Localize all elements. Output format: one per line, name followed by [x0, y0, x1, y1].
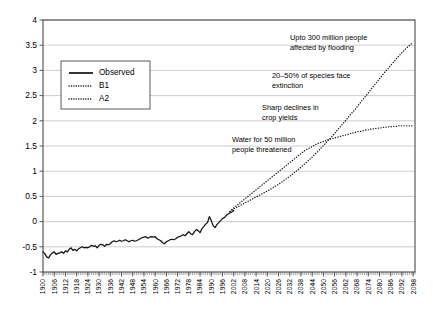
chart-container: 43.532.521.510.50-0.5-1 1900190619121918…	[0, 0, 433, 325]
annotations: Upto 300 million peopleaffected by flood…	[232, 33, 367, 154]
x-axis-label: 2074	[365, 279, 372, 294]
annotation-line-2: affected by flooding	[290, 43, 354, 52]
x-axis-label: 1918	[73, 279, 80, 294]
y-axis-label: 1	[32, 166, 37, 176]
x-axis-label: 1972	[174, 279, 181, 294]
y-axis-label: 0.5	[25, 191, 37, 201]
x-axis-label: 1960	[152, 279, 159, 294]
x-axis-label: 1966	[163, 279, 170, 294]
annotation-crop: Sharp declines incrop yields	[262, 103, 319, 122]
x-axis-label: 2032	[286, 279, 293, 294]
x-axis-label: 1990	[208, 279, 215, 294]
legend-label-observed[interactable]: Observed	[99, 68, 135, 77]
x-axis-label: 1924	[84, 279, 91, 294]
grid-lines	[43, 20, 415, 247]
y-axis-label: -0.5	[22, 242, 37, 252]
y-axis-ticks: 43.532.521.510.50-0.5-1	[22, 15, 43, 277]
x-axis-label: 1984	[196, 279, 203, 294]
climate-projection-chart: 43.532.521.510.50-0.5-1 1900190619121918…	[0, 0, 433, 325]
annotation-line-1: 20–50% of species face	[272, 71, 350, 80]
x-axis-label: 2020	[264, 279, 271, 294]
y-axis-label: 3.5	[25, 40, 37, 50]
y-axis-label: 2.5	[25, 90, 37, 100]
x-axis-label: 2050	[320, 279, 327, 294]
annotation-water: Water for 50 millionpeople threatened	[232, 135, 295, 154]
x-axis-label: 1996	[219, 279, 226, 294]
annotation-extinction: 20–50% of species faceextinction	[272, 71, 350, 90]
legend-label-b1[interactable]: B1	[99, 81, 109, 90]
chart-legend[interactable]: ObservedB1A2	[61, 61, 150, 109]
y-axis-label: -1	[29, 267, 37, 277]
x-axis-label: 2026	[275, 279, 282, 294]
annotation-flooding: Upto 300 million peopleaffected by flood…	[290, 33, 367, 52]
x-axis-label: 2068	[353, 279, 360, 294]
x-axis-label: 1906	[51, 279, 58, 294]
x-axis-label: 1912	[62, 279, 69, 294]
x-axis-label: 1900	[39, 279, 46, 294]
y-axis-label: 0	[32, 216, 37, 226]
legend-label-a2[interactable]: A2	[99, 94, 109, 103]
x-axis-label: 2062	[342, 279, 349, 294]
annotation-line-1: Sharp declines in	[262, 103, 319, 112]
x-axis-label: 2008	[241, 279, 248, 294]
y-axis-label: 4	[32, 15, 37, 25]
annotation-line-2: crop yields	[262, 113, 298, 122]
x-axis-label: 1978	[185, 279, 192, 294]
x-axis-label: 2080	[376, 279, 383, 294]
x-axis-ticks: 1900190619121918192419301936194219481954…	[39, 272, 416, 294]
series-observed	[43, 211, 234, 258]
x-axis-label: 1936	[107, 279, 114, 294]
x-axis-label: 2002	[230, 279, 237, 294]
x-axis-label: 2056	[331, 279, 338, 294]
y-axis-label: 1.5	[25, 141, 37, 151]
annotation-line-1: Water for 50 million	[232, 135, 295, 144]
x-axis-label: 1954	[140, 279, 147, 294]
x-axis-label: 2092	[398, 279, 405, 294]
x-axis-label: 2038	[297, 279, 304, 294]
x-axis-label: 2086	[387, 279, 394, 294]
y-axis-label: 2	[32, 116, 37, 126]
annotation-line-2: people threatened	[232, 145, 292, 154]
x-axis-label: 2098	[410, 279, 417, 294]
x-axis-label: 1930	[95, 279, 102, 294]
x-axis-label: 2044	[309, 279, 316, 294]
annotation-line-2: extinction	[272, 81, 303, 90]
x-axis-label: 2014	[253, 279, 260, 294]
x-axis-label: 1942	[118, 279, 125, 294]
x-axis-label: 1948	[129, 279, 136, 294]
y-axis-label: 3	[32, 65, 37, 75]
annotation-line-1: Upto 300 million people	[290, 33, 367, 42]
